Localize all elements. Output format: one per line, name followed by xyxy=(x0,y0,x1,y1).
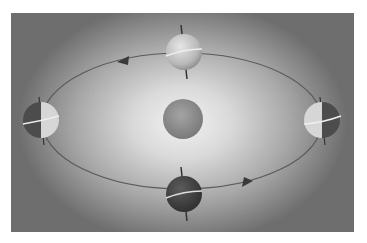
earth-top xyxy=(166,25,202,79)
earth-bottom xyxy=(166,167,202,221)
orbit-direction-arrow-icon xyxy=(242,177,253,187)
orbit-diagram xyxy=(11,13,354,232)
earth-left xyxy=(21,97,61,145)
orbit-diagram-svg xyxy=(11,13,354,232)
earth-right xyxy=(302,97,342,145)
sun xyxy=(163,99,203,139)
